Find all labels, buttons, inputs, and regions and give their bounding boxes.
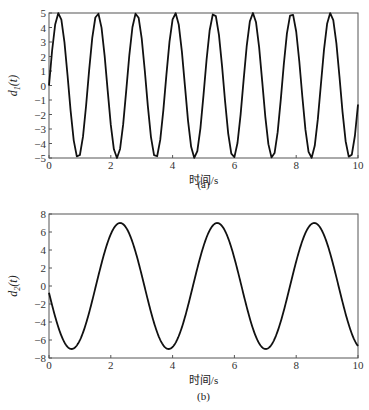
y-tick-label: −6 xyxy=(34,334,46,346)
x-tick-label: 2 xyxy=(108,159,114,171)
y-tick-label: −2 xyxy=(34,109,46,121)
panel-caption: (b) xyxy=(197,390,210,403)
y-tick-label: 3 xyxy=(41,36,47,48)
x-tick-label: 0 xyxy=(46,359,52,371)
x-tick-label: 0 xyxy=(46,159,52,171)
panel-caption: (a) xyxy=(197,178,210,191)
y-tick-label: 6 xyxy=(41,226,47,238)
x-tick-label: 4 xyxy=(170,159,176,171)
x-tick-label: 8 xyxy=(293,359,299,371)
y-tick-label: 8 xyxy=(41,208,47,220)
y-tick-label: 0 xyxy=(41,80,47,92)
data-series-line xyxy=(49,13,358,158)
x-tick-label: 4 xyxy=(170,359,176,371)
x-tick-label: 10 xyxy=(353,159,365,171)
y-tick-label: 4 xyxy=(41,244,47,256)
y-tick-label: −2 xyxy=(34,298,46,310)
x-tick-label: 6 xyxy=(232,359,238,371)
y-tick-label: 2 xyxy=(41,262,47,274)
y-axis-label: d2(t) xyxy=(6,275,22,296)
x-axis-label: 时间/s xyxy=(189,374,218,386)
y-tick-label: −3 xyxy=(34,123,46,135)
y-tick-label: 5 xyxy=(41,7,47,19)
y-tick-label: −1 xyxy=(34,94,46,106)
x-tick-label: 10 xyxy=(353,359,365,371)
y-axis-label: d1(t) xyxy=(6,75,22,96)
y-tick-label: −4 xyxy=(34,138,46,150)
x-tick-label: 8 xyxy=(293,159,299,171)
x-tick-label: 2 xyxy=(108,359,114,371)
x-tick-label: 6 xyxy=(232,159,238,171)
y-tick-label: 1 xyxy=(41,65,47,77)
y-tick-label: 2 xyxy=(41,51,47,63)
chart-panel-b: 024681086420−2−4−6−8d2(t)时间/s(b) xyxy=(6,208,364,403)
y-tick-label: −5 xyxy=(34,152,46,164)
figure: 0246810543210−1−2−3−4−5d1(t)时间/s(a) 0246… xyxy=(0,0,369,410)
chart-panel-a: 0246810543210−1−2−3−4−5d1(t)时间/s(a) xyxy=(6,7,364,191)
y-tick-label: 0 xyxy=(41,280,47,292)
y-tick-label: −8 xyxy=(34,352,46,364)
y-tick-label: −4 xyxy=(34,316,46,328)
data-series-line xyxy=(49,223,358,349)
y-tick-label: 4 xyxy=(41,22,47,34)
